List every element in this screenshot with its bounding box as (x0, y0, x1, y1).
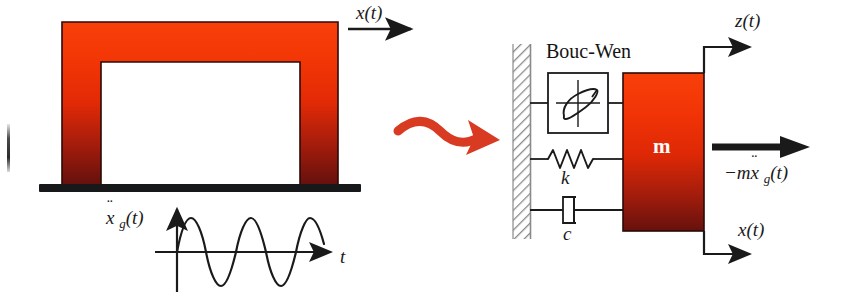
ground-accel-arg: (t) (126, 207, 144, 228)
spring-stiffness-label: k (561, 167, 569, 189)
portal-frame (62, 22, 338, 189)
applied-force-prefix: −m (724, 162, 751, 183)
bouc-wen-label: Bouc-Wen (546, 40, 631, 63)
ground-accel-dots: ¨ (107, 196, 113, 216)
frame-displacement-label: x(t) (356, 2, 382, 24)
damping-coefficient-label: c (563, 223, 571, 245)
red-transition-arrow (398, 120, 500, 155)
applied-force-label: −m x ¨ g (t) (724, 162, 788, 187)
ground-support-line (39, 184, 361, 192)
z-displacement-arrow (704, 47, 750, 73)
ground-acceleration-plot (155, 209, 331, 292)
applied-force-subscript: g (764, 171, 771, 186)
mass-displacement-label: x(t) (738, 219, 764, 241)
hysteretic-displacement-label: z(t) (735, 10, 760, 32)
spring-coil (548, 150, 593, 168)
applied-force-arg: (t) (770, 162, 788, 183)
bouc-wen-element (530, 73, 623, 133)
ground-acceleration-label: x ¨ g (t) (106, 207, 144, 232)
applied-force-arrow (712, 136, 810, 158)
mechanics-diagram: x(t) x ¨ g (t) t Bouc-Wen k c m z(t) x(t… (0, 0, 851, 297)
spring-element (530, 150, 623, 168)
time-axis-label: t (340, 246, 345, 268)
damper-element (530, 197, 623, 223)
applied-force-dots: ¨ (752, 151, 758, 171)
left-edge-artifact (7, 124, 10, 172)
fixed-hatched-wall (513, 44, 531, 239)
ground-accel-subscript: g (119, 216, 126, 231)
mass-label: m (653, 134, 671, 159)
frame-column-beam-body (62, 22, 338, 189)
diagram-canvas (0, 0, 851, 297)
